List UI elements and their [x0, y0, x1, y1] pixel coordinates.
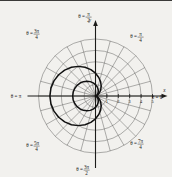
- radial-tick-label: 2: [117, 99, 119, 104]
- theta-label-theta-pi: θ = π: [11, 93, 22, 99]
- theta-label-theta-3pi-4: θ =3π4: [26, 28, 39, 40]
- theta-label-denominator: 2: [85, 170, 88, 176]
- grid-spoke: [96, 68, 145, 97]
- grid-spoke: [96, 81, 151, 96]
- theta-label-text: θ = 0: [152, 94, 163, 100]
- polar-plot-figure: 12345 θ = 0θ =π4θ =π2θ =3π4θ = πθ =5π4θ …: [0, 0, 172, 177]
- x-axis-name: x: [162, 87, 166, 93]
- theta-label-denominator: 4: [139, 144, 142, 150]
- x-axis-arrowhead: [162, 94, 168, 99]
- grid-spoke: [40, 81, 95, 96]
- theta-label-numerator: 3π: [84, 164, 90, 170]
- theta-label-denominator: 4: [139, 37, 142, 43]
- theta-label-numerator: 7π: [138, 138, 144, 144]
- theta-label-numerator: 5π: [34, 140, 40, 146]
- theta-label-prefix: θ =: [130, 33, 137, 39]
- theta-label-prefix: θ =: [130, 140, 137, 146]
- theta-label-prefix: θ =: [76, 166, 83, 172]
- grid-spoke: [96, 96, 151, 111]
- theta-label-theta-pi-4: θ =π4: [130, 31, 143, 43]
- radial-tick-labels: 12345: [106, 99, 155, 104]
- theta-label-denominator: 4: [35, 146, 38, 152]
- theta-label-denominator: 4: [35, 34, 38, 40]
- radial-tick-label: 4: [140, 99, 143, 104]
- theta-label-theta-0: θ = 0: [152, 94, 163, 100]
- theta-label-numerator: 3π: [34, 28, 40, 34]
- theta-label-text: θ = π: [11, 93, 22, 99]
- radial-tick-label: 1: [106, 99, 108, 104]
- grid-spoke: [96, 56, 136, 96]
- theta-label-theta-7pi-4: θ =7π4: [130, 138, 143, 150]
- theta-label-prefix: θ =: [26, 30, 33, 36]
- grid-spoke: [55, 96, 95, 136]
- y-axis-name: y: [88, 17, 92, 23]
- grid-spoke: [96, 47, 125, 96]
- grid-spoke: [55, 56, 95, 96]
- theta-label-theta-3pi-2: θ =3π2: [76, 164, 89, 176]
- theta-label-numerator: π: [139, 31, 142, 37]
- grid-spoke: [67, 47, 96, 96]
- grid-spoke: [40, 96, 95, 111]
- grid-spoke: [67, 96, 96, 145]
- polar-plot-svg: 12345 θ = 0θ =π4θ =π2θ =3π4θ = πθ =5π4θ …: [0, 1, 172, 177]
- theta-label-prefix: θ =: [78, 13, 85, 19]
- theta-label-prefix: θ =: [26, 142, 33, 148]
- grid-spoke: [96, 96, 125, 145]
- y-axis-arrowhead: [93, 20, 98, 26]
- grid-spoke: [96, 96, 145, 125]
- theta-label-theta-5pi-4: θ =5π4: [26, 140, 39, 152]
- radial-tick-label: 3: [129, 99, 132, 104]
